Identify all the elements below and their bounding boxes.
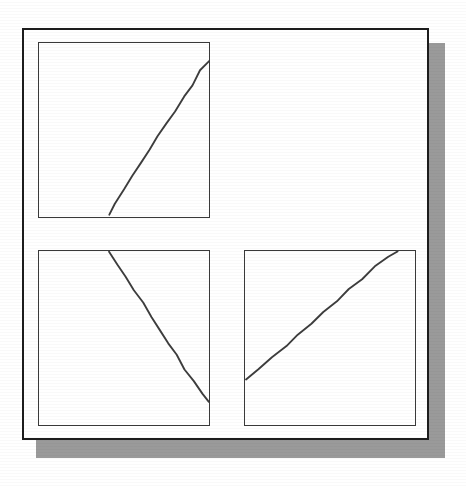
- trend-line-bottom-left: [109, 252, 209, 402]
- panel-grid: [24, 30, 427, 438]
- chart-panel-bottom-right: [244, 250, 416, 426]
- chart-panel-top-left-plot: [39, 43, 209, 217]
- chart-panel-top-left: [38, 42, 210, 218]
- chart-panel-bottom-left: [38, 250, 210, 426]
- figure-page: [0, 0, 466, 486]
- chart-panel-bottom-left-plot: [39, 251, 209, 425]
- trend-line-bottom-right: [246, 252, 397, 380]
- figure-outer-frame: [22, 28, 429, 440]
- chart-panel-bottom-right-plot: [245, 251, 415, 425]
- trend-line-top-left: [109, 60, 209, 214]
